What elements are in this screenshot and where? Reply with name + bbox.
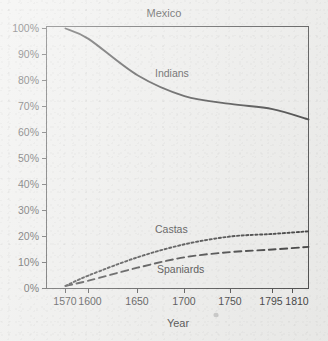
chart-figure: Mexico 100% 90% 80% 70% 60% 50% (0, 0, 328, 341)
y-tick-label-10: 10% (18, 256, 39, 268)
y-tick-label-20: 20% (18, 230, 39, 242)
y-axis-labels: 100% 90% 80% 70% 60% 50% 40% 30% 20% 10%… (12, 22, 39, 294)
y-tick-label-30: 30% (18, 204, 39, 216)
chart-title: Mexico (147, 7, 182, 19)
x-axis-ticks (66, 289, 293, 294)
chart-canvas: Mexico 100% 90% 80% 70% 60% 50% (0, 0, 328, 341)
x-tick-label-1570: 1570 (53, 295, 77, 307)
x-tick-label-1700: 1700 (172, 295, 196, 307)
y-tick-label-50: 50% (18, 152, 39, 164)
x-tick-label-1650: 1650 (125, 295, 149, 307)
y-tick-label-90: 90% (18, 48, 39, 60)
x-axis-labels: 1570 1600 1650 1700 1750 1795 1810 (53, 295, 309, 307)
y-tick-label-40: 40% (18, 178, 39, 190)
x-tick-label-1810: 1810 (285, 295, 309, 307)
series-label-spaniards: Spaniards (157, 263, 204, 275)
y-tick-label-100: 100% (12, 22, 39, 34)
series-label-castas: Castas (155, 223, 188, 235)
y-axis-ticks (42, 29, 47, 289)
y-tick-label-70: 70% (18, 100, 39, 112)
x-tick-label-1750: 1750 (218, 295, 242, 307)
series-label-indians: Indians (155, 67, 189, 79)
y-tick-label-0: 0% (24, 282, 39, 294)
scan-speck (213, 313, 218, 317)
x-axis-title: Year (167, 317, 190, 329)
x-tick-label-1795: 1795 (259, 295, 283, 307)
x-tick-label-1600: 1600 (78, 295, 102, 307)
y-tick-label-60: 60% (18, 126, 39, 138)
y-tick-label-80: 80% (18, 74, 39, 86)
